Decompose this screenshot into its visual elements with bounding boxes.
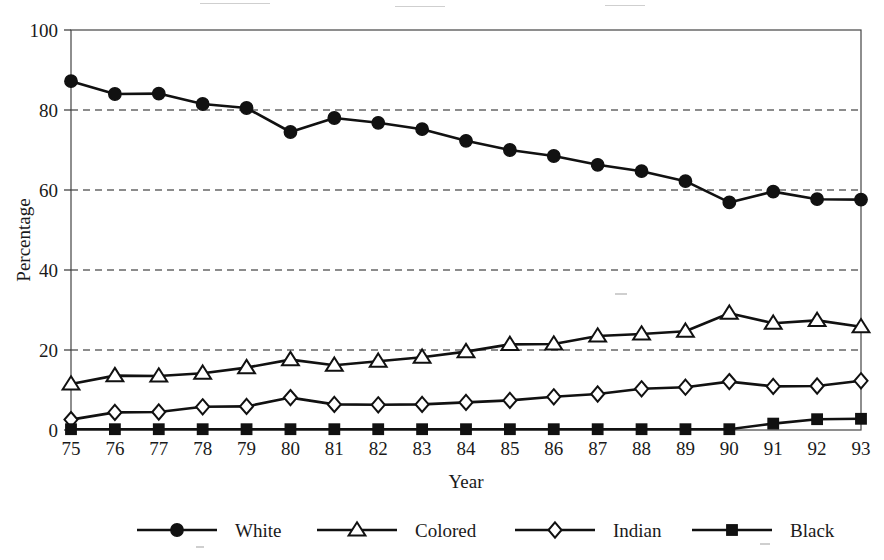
x-tick-label-81: 81 [325, 438, 344, 459]
x-tick-label-82: 82 [369, 438, 388, 459]
filled-square-marker [768, 418, 778, 428]
x-tick-label-80: 80 [281, 438, 300, 459]
filled-circle-marker [196, 98, 208, 110]
x-tick-label-91: 91 [764, 438, 783, 459]
x-tick-label-90: 90 [720, 438, 739, 459]
y-tick-label-40: 40 [39, 260, 58, 281]
filled-square-marker [724, 424, 734, 434]
y-tick-label-0: 0 [49, 420, 59, 441]
filled-square-marker [285, 424, 295, 434]
filled-square-marker [549, 424, 559, 434]
x-tick-label-86: 86 [544, 438, 563, 459]
filled-circle-marker [723, 196, 735, 208]
filled-square-marker [856, 414, 866, 424]
x-axis-title: Year [448, 471, 484, 492]
x-tick-label-77: 77 [149, 438, 168, 459]
filled-square-marker [812, 414, 822, 424]
x-tick-label-75: 75 [62, 438, 81, 459]
x-tick-label-78: 78 [193, 438, 212, 459]
filled-circle-marker [109, 88, 121, 100]
filled-square-marker [417, 424, 427, 434]
filled-square-marker [329, 424, 339, 434]
y-tick-label-100: 100 [30, 20, 59, 41]
filled-circle-marker [679, 175, 691, 187]
filled-square-marker [461, 424, 471, 434]
x-tick-label-92: 92 [808, 438, 827, 459]
filled-square-marker [505, 424, 515, 434]
filled-square-marker [373, 424, 383, 434]
filled-circle-marker [635, 165, 647, 177]
x-tick-label-83: 83 [413, 438, 432, 459]
filled-circle-marker [504, 144, 516, 156]
x-tick-label-84: 84 [457, 438, 477, 459]
y-tick-label-60: 60 [39, 180, 58, 201]
x-tick-label-85: 85 [500, 438, 519, 459]
legend-label-colored: Colored [415, 520, 477, 541]
filled-circle-marker [591, 159, 603, 171]
filled-circle-marker [767, 185, 779, 197]
filled-square-marker [241, 424, 251, 434]
filled-circle-marker [284, 126, 296, 138]
y-axis-title: Percentage [13, 198, 34, 281]
filled-circle-marker [548, 150, 560, 162]
filled-square-marker [154, 424, 164, 434]
filled-circle-marker [811, 193, 823, 205]
filled-circle-marker [240, 102, 252, 114]
legend-label-indian: Indian [613, 520, 662, 541]
legend-label-white: White [235, 520, 281, 541]
chart-svg: 020406080100 757677787980818283848586878… [0, 0, 884, 560]
x-tick-label-88: 88 [632, 438, 651, 459]
y-tick-label-20: 20 [39, 340, 58, 361]
y-tick-label-80: 80 [39, 100, 58, 121]
x-tick-label-76: 76 [105, 438, 124, 459]
chart-figure: 020406080100 757677787980818283848586878… [0, 0, 884, 560]
x-tick-label-89: 89 [676, 438, 695, 459]
filled-circle-marker [153, 87, 165, 99]
x-tick-label-93: 93 [852, 438, 871, 459]
filled-square-marker [66, 424, 76, 434]
filled-square-marker [636, 424, 646, 434]
chart-background [0, 0, 884, 560]
legend-label-black: Black [790, 520, 835, 541]
filled-circle-marker [328, 112, 340, 124]
filled-circle-marker [372, 117, 384, 129]
filled-circle-marker [460, 135, 472, 147]
x-tick-label-87: 87 [588, 438, 607, 459]
filled-circle-marker [171, 524, 183, 536]
filled-square-marker [110, 424, 120, 434]
x-tick-label-79: 79 [237, 438, 256, 459]
filled-square-marker [727, 525, 737, 535]
filled-square-marker [680, 424, 690, 434]
filled-square-marker [592, 424, 602, 434]
filled-square-marker [197, 424, 207, 434]
filled-circle-marker [855, 193, 867, 205]
filled-circle-marker [65, 75, 77, 87]
filled-circle-marker [416, 123, 428, 135]
